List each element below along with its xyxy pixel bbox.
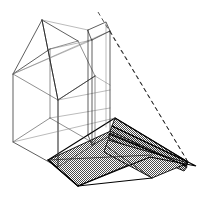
diagram-canvas xyxy=(0,0,210,197)
shadow-construction-figure: Axonometric shadow construction Wirefram… xyxy=(0,0,210,197)
